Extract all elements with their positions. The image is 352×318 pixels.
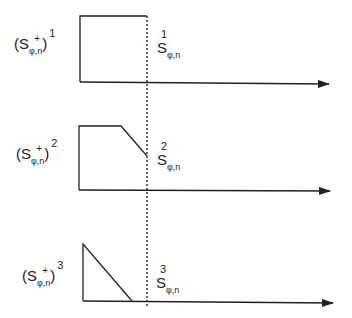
plot-3	[83, 244, 333, 303]
plot-3-left-label: (Sφ,n+)3	[22, 268, 63, 283]
plot-3-shape	[83, 244, 132, 301]
plot-2-right-label: 2Sφ,n	[157, 152, 180, 167]
plot-2-left-label: (Sφ,n+)2	[16, 146, 57, 161]
plot-2-axis	[79, 190, 330, 191]
plot-1	[80, 16, 329, 84]
plot-3-axis	[83, 301, 333, 303]
plot-1-right-label: 1Sφ,n	[157, 40, 180, 55]
plot-1-axis	[80, 82, 329, 84]
plot-1-left-label: (Sφ,n+)1	[14, 36, 55, 51]
plot-2-shape	[79, 126, 147, 190]
plot-2	[79, 126, 330, 191]
plot-3-right-label: 3Sφ,n	[156, 275, 179, 290]
plot-1-shape	[80, 16, 147, 82]
